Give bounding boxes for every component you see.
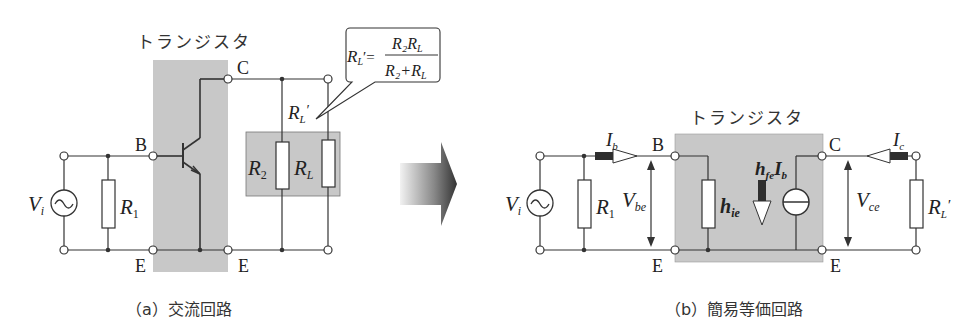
terminal (912, 152, 920, 160)
hfe-ib-arrow-icon (758, 180, 766, 201)
label-b: B (652, 135, 664, 155)
label-ic: Ic (892, 129, 904, 152)
label-r1: R1 (595, 195, 615, 221)
formula-denominator: R₂+RL (384, 62, 427, 81)
label-rl-prime: RL′ (287, 102, 310, 125)
transistor-box (153, 60, 228, 272)
label-b: B (135, 135, 147, 155)
terminal-e (671, 246, 679, 254)
terminal-e (818, 246, 826, 254)
circuit-figure: トランジスタ B C E E Vi R1 R2 RL RL′ RL′= R₂RL… (0, 0, 976, 333)
equivalent-circuit: トランジスタ B C E E Vi R1 Ib Ic Vbe Vce hie h… (505, 108, 951, 319)
terminal-e (224, 246, 232, 254)
label-ib: Ib (605, 129, 618, 152)
terminal (912, 246, 920, 254)
terminal-c (224, 75, 232, 83)
ib-current-arrow-icon (595, 152, 613, 160)
resistor-r1 (578, 180, 591, 228)
terminal (324, 246, 332, 254)
label-vi: Vi (28, 192, 44, 218)
transform-arrow-icon (400, 142, 457, 226)
label-vbe: Vbe (622, 188, 647, 214)
label-e: E (135, 256, 146, 276)
resistor-r1 (102, 180, 115, 228)
terminal (536, 152, 544, 160)
label-e: E (830, 256, 841, 276)
ac-circuit: トランジスタ B C E E Vi R1 R2 RL RL′ RL′= R₂RL… (28, 28, 440, 319)
terminal-b (671, 152, 679, 160)
resistor-rl-prime (910, 180, 923, 228)
caption-a: （a）交流回路 (126, 300, 232, 319)
ic-current-arrow-icon (890, 152, 908, 160)
label-vce: Vce (856, 188, 880, 214)
terminal (536, 246, 544, 254)
label-rl-prime: RL′ (927, 195, 951, 220)
terminal-e (149, 246, 157, 254)
label-e: E (238, 256, 249, 276)
transistor-label: トランジスタ (690, 108, 804, 128)
terminal-b (149, 152, 157, 160)
terminal (60, 246, 68, 254)
caption-b: （b）簡易等価回路 (665, 300, 803, 319)
terminal (60, 152, 68, 160)
terminal (324, 75, 332, 83)
resistor-r2 (276, 142, 289, 189)
label-c: C (237, 58, 249, 78)
label-r1: R1 (119, 195, 139, 221)
resistor-rl (322, 140, 335, 187)
transistor-label: トランジスタ (137, 32, 251, 52)
resistor-hie (702, 180, 715, 228)
label-vi: Vi (505, 192, 521, 218)
terminal-c (818, 152, 826, 160)
label-e: E (652, 256, 663, 276)
label-c: C (829, 135, 841, 155)
